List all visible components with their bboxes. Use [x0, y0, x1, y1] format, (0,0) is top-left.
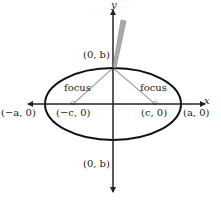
right-focus-label: focus [140, 83, 167, 93]
right-focus-point-label: (c, 0) [141, 108, 167, 118]
ellipse-diagram: y x (0, b) (0, b) (−a, 0) (a, 0) (−c, 0)… [0, 0, 221, 200]
left-vertex-label: (−a, 0) [1, 108, 36, 118]
pencil-icon [113, 20, 126, 68]
y-axis-label: y [111, 0, 117, 10]
bottom-vertex-label: (0, b) [83, 159, 110, 169]
left-focus-point-label: (−c, 0) [56, 108, 91, 118]
x-axis-label: x [204, 96, 210, 106]
top-vertex-label: (0, b) [83, 50, 110, 60]
diagram-graphics [0, 0, 221, 200]
left-focus-label: focus [64, 83, 91, 93]
right-vertex-label: (a, 0) [183, 108, 209, 118]
